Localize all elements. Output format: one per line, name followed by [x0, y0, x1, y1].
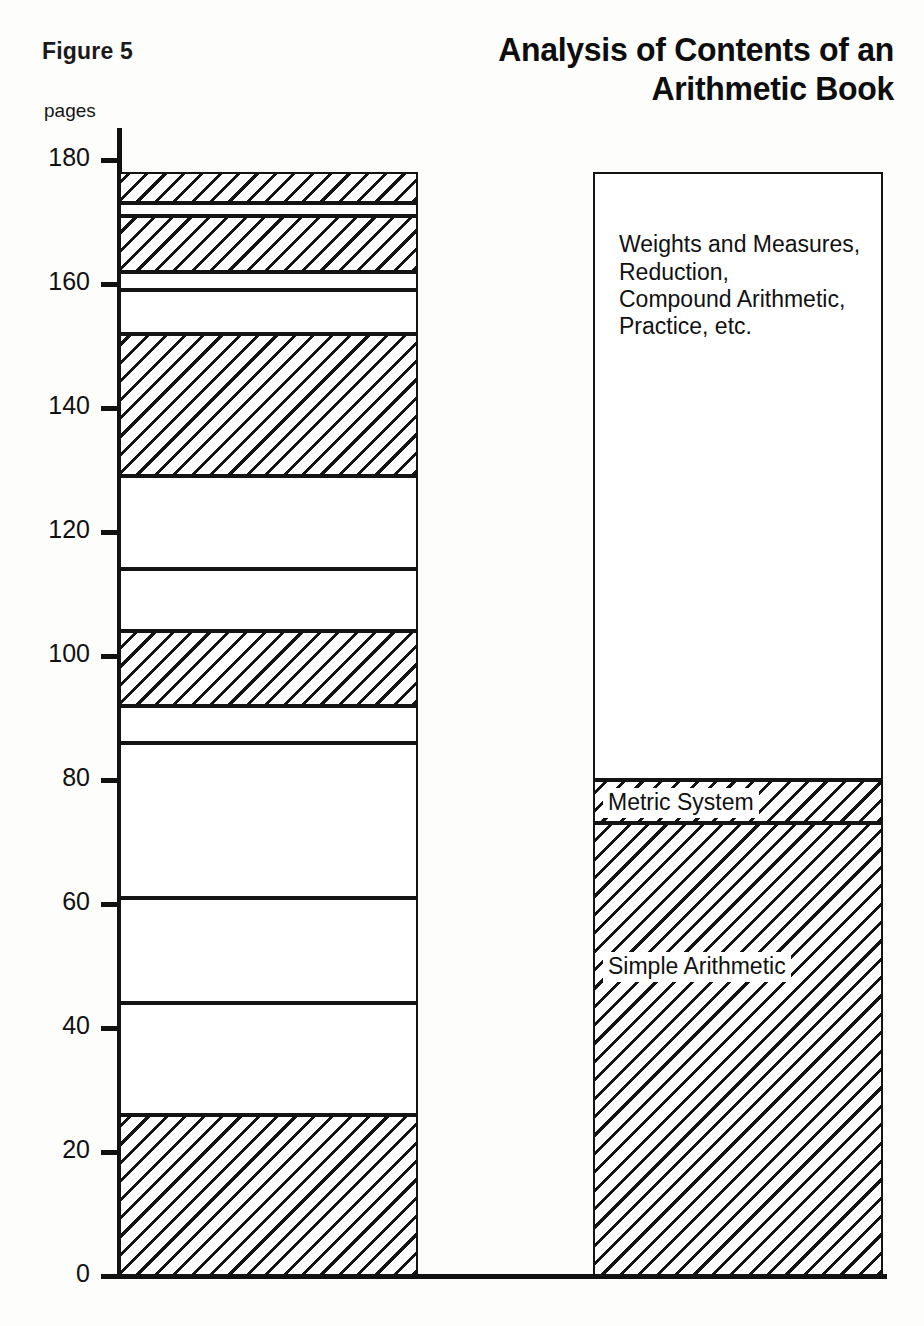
- bar-segment: [119, 203, 418, 215]
- y-axis-tick-label: 0: [10, 1259, 90, 1288]
- bar-segment: [119, 569, 418, 631]
- chart-plot-area: 180160140120100806040200 Weights and Mea…: [0, 0, 924, 1326]
- y-axis-tick: [101, 778, 118, 783]
- bar-segment: Simple Arithmetic: [593, 823, 883, 1276]
- bar-segment: [119, 216, 418, 272]
- bar-segment: [119, 272, 418, 291]
- segment-label-weights-and-measures: Weights and Measures, Reduction, Compoun…: [603, 230, 865, 342]
- bar-segment: [119, 172, 418, 203]
- bar-segment: [119, 706, 418, 743]
- y-axis-tick: [101, 406, 118, 411]
- y-axis-tick: [101, 158, 118, 163]
- y-axis-tick-label: 180: [10, 143, 90, 172]
- bar-segment: [119, 290, 418, 333]
- y-axis-tick-label: 80: [10, 763, 90, 792]
- y-axis-tick: [101, 282, 118, 287]
- y-axis-tick-label: 60: [10, 887, 90, 916]
- y-axis-tick-label: 100: [10, 639, 90, 668]
- segment-label-metric-system: Metric System: [603, 788, 759, 818]
- segment-label-simple-arithmetic: Simple Arithmetic: [603, 952, 791, 982]
- bar-segment: [119, 476, 418, 569]
- stacked-bar-grouped-subjects: Weights and Measures, Reduction, Compoun…: [593, 172, 883, 1276]
- y-axis-tick: [101, 654, 118, 659]
- y-axis-tick-label: 120: [10, 515, 90, 544]
- bar-segment: [119, 743, 418, 898]
- y-axis-tick-label: 160: [10, 267, 90, 296]
- stacked-bar-detailed-blocks: [119, 172, 418, 1276]
- y-axis-tick: [101, 530, 118, 535]
- figure-page: Figure 5 Analysis of Contents of an Arit…: [0, 0, 924, 1326]
- y-axis-tick: [101, 902, 118, 907]
- y-axis-tick-label: 40: [10, 1011, 90, 1040]
- bar-segment: [119, 898, 418, 1003]
- bar-segment: [119, 334, 418, 477]
- bar-segment: [119, 1115, 418, 1276]
- bar-segment: [119, 631, 418, 705]
- y-axis-tick-label: 20: [10, 1135, 90, 1164]
- bar-segment: Weights and Measures, Reduction, Compoun…: [593, 172, 883, 780]
- y-axis-tick: [101, 1026, 118, 1031]
- y-axis-tick: [101, 1274, 118, 1279]
- y-axis-tick-label: 140: [10, 391, 90, 420]
- y-axis-tick: [101, 1150, 118, 1155]
- bar-segment: [119, 1003, 418, 1115]
- bar-segment: Metric System: [593, 780, 883, 823]
